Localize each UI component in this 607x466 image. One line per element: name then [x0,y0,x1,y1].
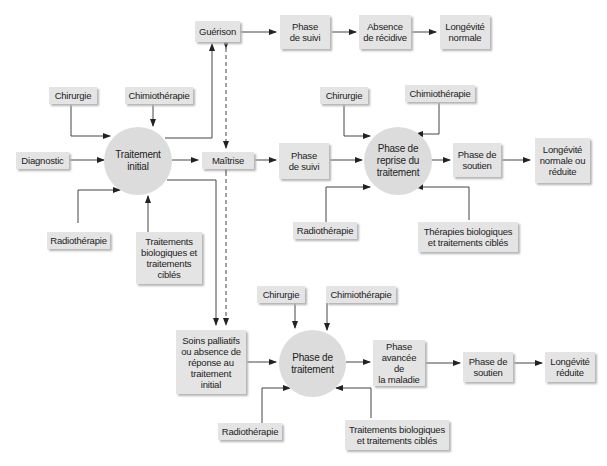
radiotherapie-initial-box: Radiothérapie [47,232,110,249]
traitements-bio-initial-label: Traitements biologiques et traitements c… [141,236,197,280]
therapies-bio-reprise-box: Thérapies biologiques et traitements cib… [418,222,518,252]
phase-suivi-middle-label: Phase de suivi [289,150,320,172]
longevite-reduite-label: Longévité réduite [550,356,589,378]
diagnostic-label: Diagnostic [21,155,63,166]
phase-traitement-node: Phase de traitement [279,330,346,397]
radiotherapie-traitement-label: Radiothérapie [222,426,279,437]
chimiotherapie-traitement-box: Chimiothérapie [326,286,396,303]
phase-avancee-box: Phase avancée de la maladie [373,340,425,386]
diagnostic-box: Diagnostic [16,152,69,169]
traitement-initial-label: Traitement initial [115,149,160,173]
longevite-normale-reduite-box: Longévité normale ou réduite [535,138,590,183]
phase-reprise-label: Phase de reprise du traitement [377,143,419,179]
traitement-initial-node: Traitement initial [104,127,172,195]
chirurgie-reprise-label: Chirurgie [326,90,363,101]
phase-reprise-node: Phase de reprise du traitement [364,127,432,195]
chirurgie-initial-box: Chirurgie [49,87,97,104]
traitements-bio-traitement-box: Traitements biologiques et traitements c… [345,420,449,450]
absence-recidive-label: Absence de récidive [363,21,407,43]
chimiotherapie-traitement-label: Chimiothérapie [330,289,391,300]
phase-traitement-label: Phase de traitement [291,352,333,376]
chirurgie-traitement-box: Chirurgie [257,286,305,303]
radiotherapie-reprise-label: Radiothérapie [297,225,354,236]
absence-recidive-box: Absence de récidive [359,15,411,49]
longevite-normale-label: Longévité normale [445,21,484,43]
chimiotherapie-initial-box: Chimiothérapie [125,87,193,104]
chirurgie-initial-label: Chirurgie [55,90,92,101]
maitrise-box: Maîtrise [202,152,254,169]
guerison-box: Guérison [195,21,240,42]
phase-suivi-middle-box: Phase de suivi [279,143,329,179]
phase-soutien-middle-box: Phase de soutien [453,143,501,177]
chirurgie-traitement-label: Chirurgie [263,289,300,300]
chimiotherapie-initial-label: Chimiothérapie [128,90,189,101]
traitements-bio-traitement-label: Traitements biologiques et traitements c… [349,424,445,446]
phase-avancee-label: Phase avancée de la maladie [376,341,422,385]
chirurgie-reprise-box: Chirurgie [320,87,368,104]
phase-suivi-top-box: Phase de suivi [280,15,330,49]
longevite-reduite-box: Longévité réduite [545,352,595,382]
soins-palliatifs-label: Soins palliatifs ou absence de réponse a… [181,335,241,390]
radiotherapie-traitement-box: Radiothérapie [218,423,282,440]
longevite-normale-box: Longévité normale [440,15,490,49]
phase-soutien-middle-label: Phase de soutien [458,149,497,171]
phase-soutien-bottom-label: Phase de soutien [469,356,508,378]
chimiotherapie-reprise-box: Chimiothérapie [405,85,475,102]
maitrise-label: Maîtrise [212,155,244,166]
chimiotherapie-reprise-label: Chimiothérapie [409,88,470,99]
longevite-normale-reduite-label: Longévité normale ou réduite [540,144,586,177]
phase-suivi-top-label: Phase de suivi [290,21,321,43]
phase-soutien-bottom-box: Phase de soutien [463,352,513,382]
radiotherapie-reprise-box: Radiothérapie [293,222,357,239]
traitements-bio-initial-box: Traitements biologiques et traitements c… [136,232,202,284]
soins-palliatifs-box: Soins palliatifs ou absence de réponse a… [176,330,246,394]
therapies-bio-reprise-label: Thérapies biologiques et traitements cib… [424,226,513,248]
guerison-label: Guérison [199,26,236,37]
radiotherapie-initial-label: Radiothérapie [50,235,107,246]
